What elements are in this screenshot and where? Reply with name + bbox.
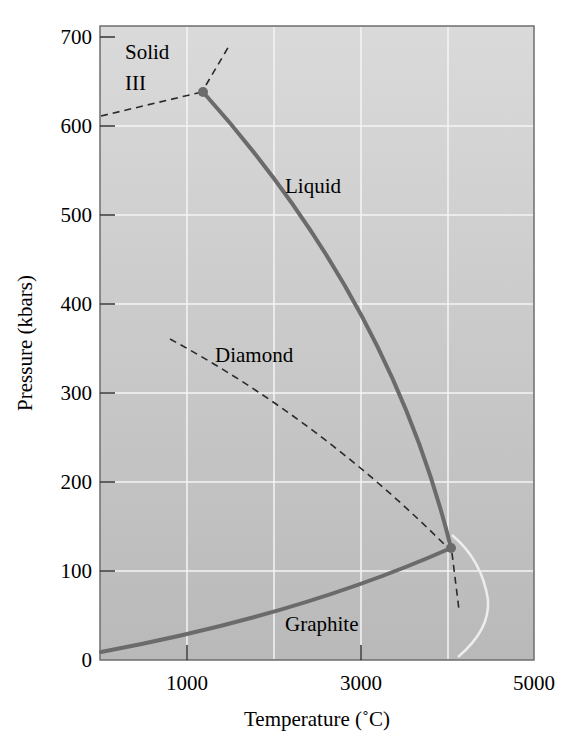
svg-text:3000: 3000 <box>340 671 382 695</box>
y-tick-labels: 700 600 500 400 300 200 100 0 <box>61 25 93 672</box>
svg-text:500: 500 <box>61 203 93 227</box>
svg-text:100: 100 <box>61 559 93 583</box>
label-liquid: Liquid <box>285 174 341 198</box>
triple-point-solid-iii <box>198 87 208 97</box>
triple-point-graphite <box>446 543 456 553</box>
svg-text:200: 200 <box>61 470 93 494</box>
label-solid: Solid <box>125 40 170 64</box>
label-graphite: Graphite <box>285 612 358 636</box>
svg-text:0: 0 <box>82 648 93 672</box>
x-tick-labels: 1000 3000 5000 <box>166 671 555 695</box>
plot-area <box>100 26 534 660</box>
label-iii: III <box>125 71 146 95</box>
svg-text:5000: 5000 <box>513 671 555 695</box>
svg-text:1000: 1000 <box>166 671 208 695</box>
label-diamond: Diamond <box>215 343 294 367</box>
svg-text:300: 300 <box>61 381 93 405</box>
svg-text:600: 600 <box>61 114 93 138</box>
phase-diagram: Solid III Liquid Diamond Graphite 700 60… <box>0 0 573 747</box>
x-axis-label: Temperature (˚C) <box>244 707 390 731</box>
svg-text:400: 400 <box>61 292 93 316</box>
svg-text:700: 700 <box>61 25 93 49</box>
y-axis-label: Pressure (kbars) <box>13 275 37 411</box>
